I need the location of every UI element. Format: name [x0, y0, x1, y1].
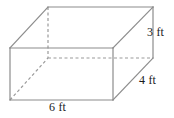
- dimension-label-depth: 4 ft: [139, 74, 156, 86]
- hidden-edges-group: [10, 7, 153, 100]
- dimension-label-height: 3 ft: [147, 26, 164, 38]
- edge-top-left-diagonal: [10, 7, 48, 48]
- dimension-label-width: 6 ft: [49, 101, 66, 113]
- visible-edges-group: [10, 7, 153, 100]
- rectangular-prism-drawing: [0, 0, 174, 118]
- hidden-edge-bottom-left-diagonal: [10, 58, 48, 100]
- figure-container: 3 ft 4 ft 6 ft: [0, 0, 174, 118]
